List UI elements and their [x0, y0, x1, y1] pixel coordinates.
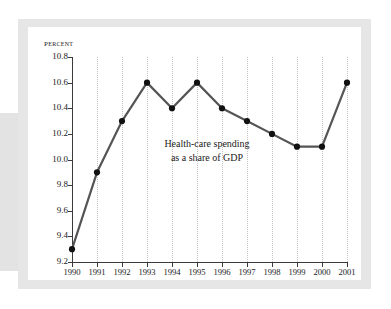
- data-point-marker: [319, 144, 325, 150]
- chart-annotation: Health-care spending as a share of GDP: [132, 137, 282, 164]
- line-chart: Percent 10.810.610.410.210.09.89.69.49.2…: [28, 27, 361, 280]
- series-markers: [69, 80, 350, 253]
- data-point-marker: [94, 169, 100, 175]
- data-point-marker: [119, 118, 125, 124]
- page-root: Percent 10.810.610.410.210.09.89.69.49.2…: [0, 0, 391, 309]
- data-point-marker: [219, 105, 225, 111]
- series-line: [72, 83, 347, 250]
- data-point-marker: [194, 80, 200, 86]
- data-point-marker: [244, 118, 250, 124]
- chart-card: Percent 10.810.610.410.210.09.89.69.49.2…: [28, 27, 361, 280]
- data-point-marker: [344, 80, 350, 86]
- data-point-marker: [294, 144, 300, 150]
- data-point-marker: [69, 246, 75, 252]
- data-point-marker: [144, 80, 150, 86]
- data-point-marker: [169, 105, 175, 111]
- annotation-line-1: Health-care spending: [132, 137, 282, 151]
- annotation-line-2: as a share of GDP: [132, 151, 282, 165]
